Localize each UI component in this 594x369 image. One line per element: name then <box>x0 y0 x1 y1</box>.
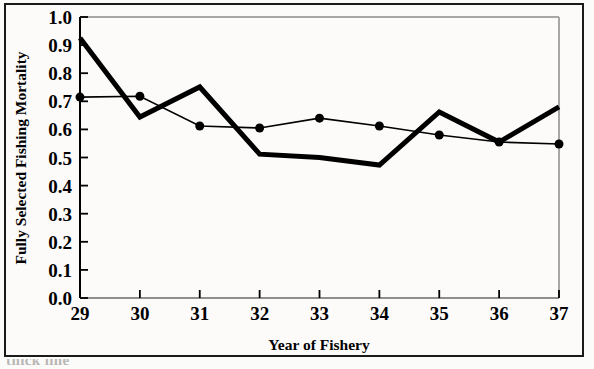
plot-wrapper: Fully Selected Fishing Mortality 0.00.10… <box>0 0 594 369</box>
y-tick-label-group: 0.00.10.20.30.40.50.60.70.80.91.0 <box>48 7 72 309</box>
series-group <box>76 38 564 165</box>
data-point-marker <box>375 122 384 131</box>
figure-container: Fully Selected Fishing Mortality 0.00.10… <box>0 0 594 369</box>
data-point-marker <box>315 114 324 123</box>
y-tick-label: 0.4 <box>48 176 72 197</box>
y-axis-title-text: Fully Selected Fishing Mortality <box>12 51 29 264</box>
x-tick-label-group: 293031323334353637 <box>71 303 570 324</box>
y-tick-label: 0.8 <box>48 63 72 84</box>
x-tick-label: 33 <box>310 303 329 324</box>
y-axis-title: Fully Selected Fishing Mortality <box>12 51 29 264</box>
y-tick-label: 0.7 <box>48 91 72 112</box>
y-tick-label: 1.0 <box>48 7 72 28</box>
y-tick-label: 0.1 <box>48 260 72 281</box>
x-tick-label: 37 <box>550 303 570 324</box>
data-point-marker <box>435 131 444 140</box>
line-chart: Fully Selected Fishing Mortality 0.00.10… <box>0 0 594 369</box>
y-tick-label: 0.5 <box>48 148 72 169</box>
y-tick-label: 0.0 <box>48 288 72 309</box>
y-tick-marks <box>80 17 88 298</box>
x-tick-label: 29 <box>71 303 90 324</box>
x-tick-label: 34 <box>370 303 390 324</box>
x-tick-label: 30 <box>130 303 149 324</box>
x-tick-marks <box>80 290 559 298</box>
data-point-marker <box>555 140 564 149</box>
data-point-marker <box>135 92 144 101</box>
data-point-marker <box>76 93 85 102</box>
x-tick-label: 36 <box>490 303 509 324</box>
y-tick-label: 0.6 <box>48 119 72 140</box>
data-point-marker <box>255 123 264 132</box>
x-axis-title-text: Year of Fishery <box>268 336 370 353</box>
x-tick-label: 32 <box>250 303 269 324</box>
data-point-marker <box>495 138 504 147</box>
caption-fragment-text: thick line <box>6 359 588 369</box>
x-tick-label: 31 <box>190 303 209 324</box>
caption-fragment: thick line <box>6 359 588 369</box>
y-tick-label: 0.3 <box>48 204 72 225</box>
data-point-marker <box>195 122 204 131</box>
x-tick-label: 35 <box>430 303 449 324</box>
y-tick-label: 0.9 <box>48 35 72 56</box>
y-tick-label: 0.2 <box>48 232 72 253</box>
